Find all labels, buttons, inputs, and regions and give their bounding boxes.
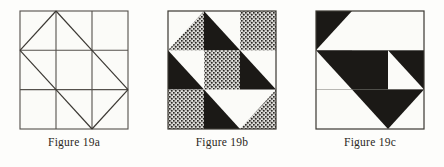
region-top-right-corner-square: [240, 11, 276, 50]
region-center-square: [204, 50, 240, 89]
figure-plate: Figure 19a: [0, 0, 444, 167]
figure-19b-graphic: [167, 10, 277, 130]
figure-panel-19b: Figure 19b: [148, 0, 296, 167]
figure-19a-graphic: [19, 10, 129, 130]
figure-19a-caption: Figure 19a: [0, 136, 148, 148]
region-bottom-left-corner-square: [168, 90, 204, 129]
figure-19a-svg: [19, 10, 129, 130]
figure-19c-graphic: [315, 10, 425, 130]
figure-19c-caption: Figure 19c: [296, 136, 444, 148]
figure-panel-19c: Figure 19c: [296, 0, 444, 167]
figure-19c-svg: [315, 10, 425, 130]
region-c-center-square: [352, 50, 388, 89]
figure-19b-svg: [167, 10, 277, 130]
panel-a-background: [19, 10, 129, 130]
figure-panel-19a: Figure 19a: [0, 0, 148, 167]
figure-19b-caption: Figure 19b: [148, 136, 296, 148]
